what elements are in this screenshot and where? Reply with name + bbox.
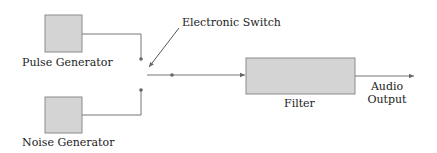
audio-output-line2: Output	[367, 93, 407, 106]
filter-block	[246, 58, 355, 94]
pulse-generator-label: Pulse Generator	[22, 56, 113, 69]
filter-label: Filter	[284, 97, 315, 110]
pulse-generator-block	[45, 15, 82, 52]
noise-generator-label: Noise Generator	[22, 136, 114, 149]
electronic-switch-label: Electronic Switch	[182, 16, 281, 29]
noise-wire	[82, 90, 141, 115]
switch-pointer-arrow	[149, 28, 179, 67]
noise-contact-dot	[139, 88, 143, 92]
noise-generator-block	[45, 97, 82, 133]
audio-output-line1: Audio	[367, 80, 407, 93]
pulse-contact-dot	[139, 57, 143, 61]
switch-pivot-dot	[170, 73, 174, 77]
audio-output-label: Audio Output	[367, 80, 407, 106]
